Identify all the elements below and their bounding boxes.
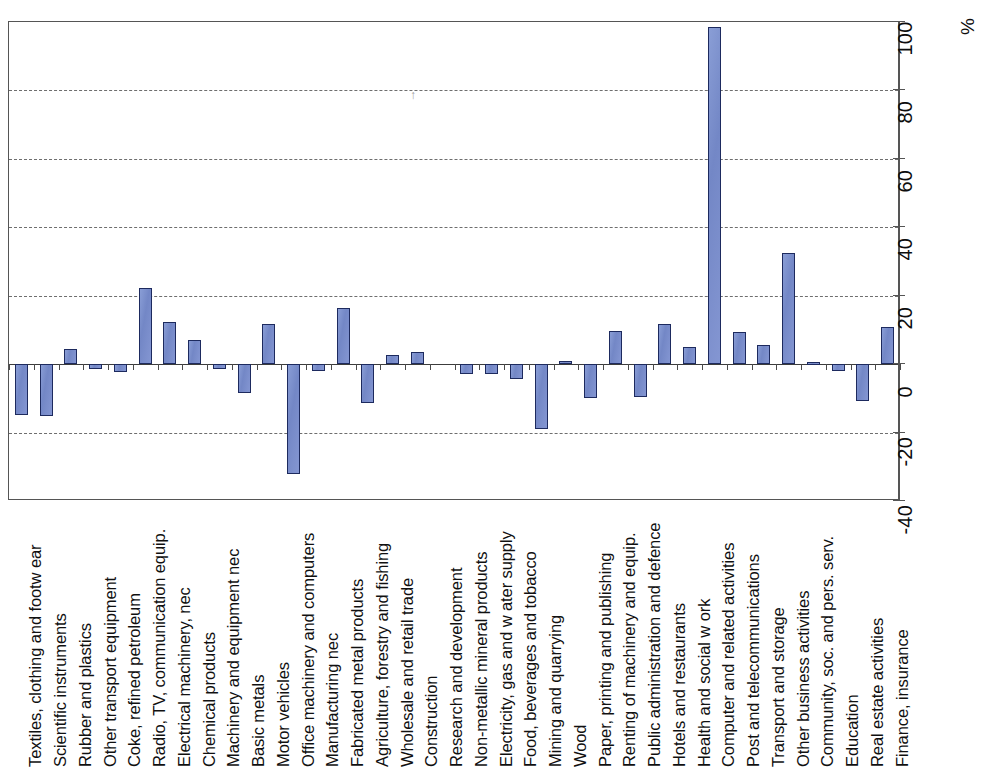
category-label: Real estate activities [868,618,887,767]
bar [114,364,127,372]
category-label: Hotels and restaurants [670,603,689,767]
bar-chart-figure: 100806040200-20-40 % Textiles, clothing … [0,0,983,772]
category-label: Non-metallic mineral products [472,552,491,767]
bar [708,27,721,364]
bar [238,364,251,393]
bar [460,364,473,374]
category-label: Coke, refined petroleum [125,593,144,767]
value-axis-tick-label: 80 [894,78,917,124]
bar [64,349,77,364]
bar [535,364,548,429]
bar [386,355,399,365]
bar [15,364,28,415]
category-label: Wholesale and retail trade [398,578,417,767]
category-label: Electricity, gas and w ater supply [497,531,516,767]
bar [733,332,746,364]
bar [213,364,226,368]
bar [856,364,869,401]
category-label: Computer and related activities [719,543,738,767]
bar [757,345,770,364]
category-label: Community, soc. and pers. serv. [818,536,837,767]
category-label: Mining and quarrying [546,615,565,767]
category-axis-labels: Textiles, clothing and footw earScientif… [0,505,983,772]
value-axis-tick-label: -20 [894,420,917,466]
bar [782,253,795,364]
bar [40,364,53,416]
bar [832,364,845,371]
category-label: Textiles, clothing and footw ear [26,545,45,767]
value-axis-tick-label: 100 [894,10,917,56]
category-label: Health and social w ork [695,599,714,767]
category-label: Basic metals [249,675,268,767]
bar [658,324,671,364]
bar [807,362,820,365]
category-label: Education [843,695,862,768]
value-axis-tick-label: 0 [894,352,917,398]
value-axis-tick-label: 60 [894,146,917,192]
bar [485,364,498,374]
value-axis-tick-label: 40 [894,215,917,261]
category-label: Rubber and plastics [76,623,95,767]
bar [337,308,350,364]
bar [188,340,201,365]
bar [139,288,152,364]
plot-area [8,21,899,500]
bar [559,361,572,364]
bar [312,364,325,371]
bar [609,331,622,365]
category-label: Electrical machinery, nec [175,587,194,767]
category-label: Finance, insurance [893,629,912,767]
bar [163,322,176,364]
category-label: Paper, printing and publishing [596,553,615,767]
bar [411,352,424,364]
category-label: Machinery and equipment nec [224,549,243,767]
category-label: Food, beverages and tobacco [521,551,540,767]
bar [262,324,275,364]
bar [634,364,647,397]
category-label: Other transport equipment [101,577,120,767]
bar [287,364,300,473]
value-axis-tick-label: 20 [894,283,917,329]
category-label: Transport and storage [769,607,788,767]
axis-unit-label: % [957,18,979,35]
category-label: Scientific instruments [51,613,70,767]
category-label: Wood [571,725,590,767]
category-label: Radio, TV, communication equip. [150,529,169,767]
category-label: Post and telecommunications [744,554,763,767]
category-label: Public administration and defence [645,523,664,767]
category-label: Fabricated metal products [348,579,367,767]
category-label: Renting of machinery and equip. [620,533,639,767]
bar [584,364,597,398]
bars-series [9,22,898,499]
bar [881,327,894,364]
scan-artifact: ↑ [410,88,416,102]
bar [361,364,374,403]
bar [89,364,102,369]
category-label: Manufacturing nec [323,633,342,767]
category-label: Agriculture, forestry and fishing [373,543,392,767]
category-label: Research and development [447,568,466,767]
category-label: Office machinery and computers [299,533,318,767]
category-label: Construction [422,676,441,767]
category-label: Other business activities [794,591,813,767]
category-label: Motor vehicles [274,662,293,767]
bar [510,364,523,378]
bar [683,347,696,364]
category-label: Chemical products [200,632,219,767]
